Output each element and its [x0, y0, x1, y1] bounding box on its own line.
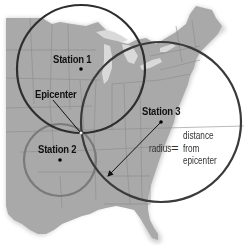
- radius-label: radius: [149, 143, 171, 155]
- distance-label-line-2: from: [183, 143, 199, 155]
- station-2-label: Station 2: [38, 143, 76, 155]
- distance-label-line-3: epicenter: [183, 155, 217, 167]
- station-3-label: Station 3: [142, 105, 180, 117]
- epicenter-point: [79, 131, 82, 134]
- station-1-dot: [79, 67, 83, 71]
- us-map: [6, 6, 244, 244]
- equals-sign: =: [171, 140, 179, 155]
- epicenter-map: [0, 0, 244, 245]
- epicenter-label: Epicenter: [35, 88, 77, 100]
- station-3-dot: [159, 120, 163, 124]
- distance-label-line-1: distance: [183, 130, 214, 142]
- station-2-dot: [58, 158, 62, 162]
- station-1-label: Station 1: [53, 53, 91, 65]
